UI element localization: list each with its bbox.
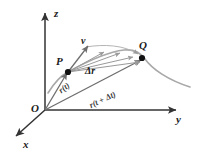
- velocity-vector-label: v: [81, 36, 85, 46]
- origin-label: O: [31, 103, 39, 114]
- diagram-canvas: [0, 0, 197, 155]
- x-axis-label: x: [23, 139, 29, 150]
- point-q-label: Q: [139, 40, 147, 51]
- y-axis-label: y: [176, 114, 181, 125]
- z-axis-label: z: [54, 8, 58, 19]
- vector-calculus-diagram: z y x O P Q v Δr r(t) r(t + Δt): [0, 0, 197, 155]
- point-q: [139, 55, 145, 61]
- point-p: [65, 69, 71, 75]
- displacement-vector-label: Δr: [85, 66, 95, 76]
- point-p-label: P: [56, 56, 63, 67]
